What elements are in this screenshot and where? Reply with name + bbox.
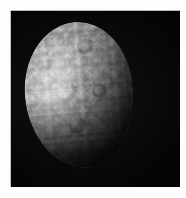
page-margin-right: [180, 0, 186, 198]
page-margin-left: [0, 0, 10, 198]
image-page-frame: [0, 0, 186, 198]
south-limb-shadow: [19, 18, 139, 173]
astronomy-image-plate: [10, 10, 180, 187]
image-caption: [10, 189, 180, 197]
page-margin-top: [0, 0, 186, 10]
moon-disc: [19, 18, 139, 173]
